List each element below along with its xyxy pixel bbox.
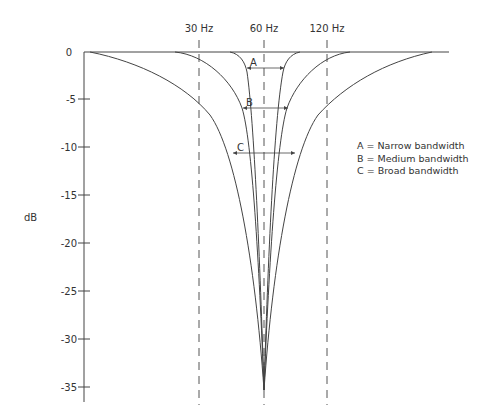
arrow-a: A <box>247 57 284 68</box>
curve-c-broad <box>90 52 432 390</box>
y-tick-label: -20 <box>61 238 77 249</box>
arrow-a-label: A <box>250 57 257 68</box>
y-tick-label: 0 <box>66 47 72 58</box>
y-tick-label: -35 <box>61 382 77 393</box>
y-tick-label: -25 <box>61 286 77 297</box>
legend-item-b: B = Medium bandwidth <box>357 153 469 166</box>
y-tick-label: -30 <box>61 334 77 345</box>
legend-item-c: C = Broad bandwidth <box>357 165 469 178</box>
y-tick-label: -10 <box>61 142 77 153</box>
y-tick-label: -5 <box>66 94 76 105</box>
arrow-b-label: B <box>246 97 253 108</box>
marker-30hz-label: 30 Hz <box>185 23 214 34</box>
marker-120hz-label: 120 Hz <box>309 23 344 34</box>
arrow-b: B <box>243 97 288 108</box>
y-axis-label: dB <box>24 212 37 223</box>
notch-filter-chart: 0 -5 -10 -15 -20 -25 -30 -35 30 Hz 60 Hz… <box>0 0 491 420</box>
y-axis: 0 -5 -10 -15 -20 -25 -30 -35 <box>61 47 449 402</box>
marker-60hz-label: 60 Hz <box>250 23 279 34</box>
y-tick-label: -15 <box>61 190 77 201</box>
legend: A = Narrow bandwidth B = Medium bandwidt… <box>357 140 469 178</box>
arrow-c-label: C <box>237 142 244 153</box>
frequency-markers: 30 Hz 60 Hz 120 Hz <box>185 23 345 405</box>
legend-item-a: A = Narrow bandwidth <box>357 140 469 153</box>
